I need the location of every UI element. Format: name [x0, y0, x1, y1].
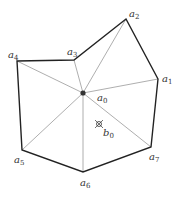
label-a7: a7	[149, 151, 159, 164]
center-point-a0	[80, 90, 85, 95]
interior-point-b0	[95, 120, 103, 128]
spoke-a1	[83, 79, 158, 93]
label-b0: b0	[103, 127, 114, 140]
spoke-a4	[17, 61, 83, 93]
label-a5: a5	[14, 154, 24, 167]
spokes	[17, 19, 158, 172]
label-a2: a2	[129, 8, 139, 21]
label-a3: a3	[67, 46, 77, 59]
label-a4: a4	[8, 49, 19, 62]
label-a1: a1	[162, 73, 172, 86]
spoke-a7	[83, 93, 151, 147]
polygon-boundary	[17, 19, 158, 172]
triangulation-diagram: a0b0a1a2a3a4a5a6a7	[0, 0, 180, 197]
spoke-a2	[83, 19, 126, 93]
spoke-a3	[74, 60, 83, 93]
spoke-a5	[22, 93, 83, 150]
label-a0: a0	[97, 92, 107, 105]
label-a6: a6	[80, 177, 91, 190]
